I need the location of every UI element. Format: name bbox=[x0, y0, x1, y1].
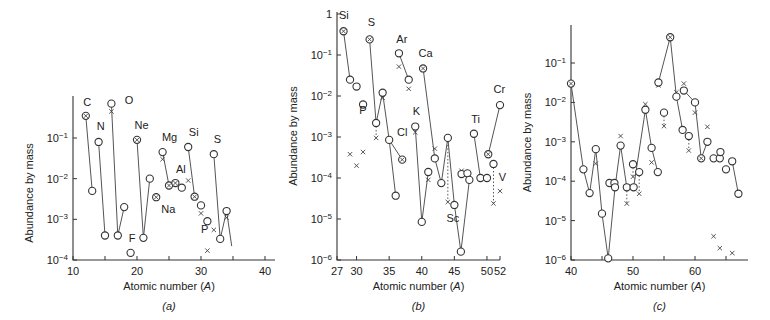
connector-line bbox=[423, 68, 469, 251]
cross-marker bbox=[491, 201, 495, 205]
circle-marker bbox=[146, 175, 153, 182]
connector-line bbox=[732, 161, 738, 194]
circle-cross-marker bbox=[419, 65, 426, 72]
x-tick-label: 52 bbox=[494, 265, 506, 277]
circle-marker bbox=[392, 192, 399, 199]
y-tick-label: 10−3 bbox=[47, 212, 69, 225]
y-tick-label: 10−6 bbox=[545, 253, 567, 266]
circle-marker bbox=[648, 144, 655, 151]
circle-cross-marker bbox=[567, 80, 574, 87]
element-label: Cr bbox=[493, 83, 505, 95]
connector-line bbox=[137, 140, 150, 238]
circle-cross-marker bbox=[133, 136, 140, 143]
element-label: K bbox=[413, 105, 421, 117]
circle-marker bbox=[418, 218, 425, 225]
circle-marker bbox=[673, 93, 680, 100]
x-axis-label: Atomic number (A) bbox=[614, 280, 706, 292]
x-tick-label: 20 bbox=[131, 265, 143, 277]
y-tick-label: 10−1 bbox=[545, 56, 567, 69]
cross-marker bbox=[348, 152, 352, 156]
circle-marker bbox=[680, 87, 687, 94]
three-panel-abundance-chart: 10−410−310−210−110203040Atomic number (A… bbox=[0, 0, 770, 320]
element-label: S bbox=[214, 133, 221, 145]
circle-marker bbox=[412, 123, 419, 130]
circle-marker bbox=[197, 202, 204, 209]
y-axis-label: Abundance by mass bbox=[287, 86, 299, 186]
panel-label: (b) bbox=[412, 300, 426, 312]
circle-marker bbox=[655, 79, 662, 86]
x-tick-label: 45 bbox=[448, 265, 460, 277]
circle-marker bbox=[405, 76, 412, 83]
panel-label: (a) bbox=[162, 300, 176, 312]
y-tick-label: 10−5 bbox=[545, 214, 567, 227]
connector-line bbox=[488, 105, 500, 154]
circle-marker bbox=[642, 106, 649, 113]
y-tick-label: 10−1 bbox=[47, 131, 69, 144]
circle-marker bbox=[483, 174, 490, 181]
connector-line bbox=[188, 147, 194, 197]
element-label: Si bbox=[189, 126, 199, 138]
x-axis-label: Atomic number (A) bbox=[373, 280, 465, 292]
circle-cross-marker bbox=[82, 112, 89, 119]
circle-marker bbox=[660, 109, 667, 116]
y-tick-label: 10−3 bbox=[311, 130, 333, 143]
circle-marker bbox=[373, 119, 380, 126]
cross-marker bbox=[705, 125, 709, 129]
circle-marker bbox=[386, 136, 393, 143]
y-tick-label: 10−4 bbox=[47, 253, 69, 266]
circle-marker bbox=[95, 138, 102, 145]
connector-line bbox=[571, 84, 627, 259]
panel-b: 10−610−510−410−310−210−1127303540455052A… bbox=[287, 8, 507, 312]
circle-marker bbox=[346, 76, 353, 83]
connector-line bbox=[474, 134, 481, 178]
circle-marker bbox=[598, 210, 605, 217]
circle-marker bbox=[691, 99, 698, 106]
circle-cross-marker bbox=[667, 34, 674, 41]
panel-label: (c) bbox=[653, 300, 666, 312]
circle-marker bbox=[444, 134, 451, 141]
element-label: F bbox=[129, 232, 136, 244]
cross-marker bbox=[649, 160, 653, 164]
cross-marker bbox=[374, 136, 378, 140]
cross-marker bbox=[498, 189, 502, 193]
cross-marker bbox=[354, 163, 358, 167]
circle-marker bbox=[586, 189, 593, 196]
connector-line bbox=[399, 53, 409, 79]
x-axis-label: Atomic number (A) bbox=[123, 280, 215, 292]
x-tick-label: 40 bbox=[565, 265, 577, 277]
circle-marker bbox=[605, 255, 612, 262]
panel-a: 10−410−310−210−110203040Atomic number (A… bbox=[23, 94, 275, 312]
y-tick-label: 10−5 bbox=[311, 212, 333, 225]
connector-line bbox=[214, 154, 227, 239]
cross-marker bbox=[361, 150, 365, 154]
y-tick-label: 1 bbox=[326, 8, 332, 20]
element-label: Ca bbox=[419, 47, 434, 59]
circle-marker bbox=[451, 201, 458, 208]
y-tick-label: 10−4 bbox=[311, 171, 333, 184]
circle-marker bbox=[89, 187, 96, 194]
cross-marker bbox=[446, 200, 450, 204]
circle-marker bbox=[457, 248, 464, 255]
circle-marker bbox=[496, 101, 503, 108]
circle-marker bbox=[108, 100, 115, 107]
connector-line bbox=[163, 152, 169, 185]
circle-marker bbox=[210, 151, 217, 158]
connector-line bbox=[370, 39, 396, 195]
element-label: P bbox=[201, 223, 208, 235]
element-label: Mg bbox=[162, 131, 177, 143]
circle-marker bbox=[114, 232, 121, 239]
circle-marker bbox=[185, 143, 192, 150]
cross-marker bbox=[637, 192, 641, 196]
circle-marker bbox=[223, 207, 230, 214]
cross-marker bbox=[687, 148, 691, 152]
circle-marker bbox=[722, 166, 729, 173]
circle-marker bbox=[617, 142, 624, 149]
circle-cross-marker bbox=[191, 193, 198, 200]
element-label: Sc bbox=[447, 212, 460, 224]
element-label: N bbox=[97, 120, 105, 132]
element-label: Na bbox=[161, 203, 176, 215]
circle-marker bbox=[490, 160, 497, 167]
circle-marker bbox=[592, 146, 599, 153]
y-tick-label: 10−4 bbox=[545, 174, 567, 187]
circle-cross-marker bbox=[153, 194, 160, 201]
